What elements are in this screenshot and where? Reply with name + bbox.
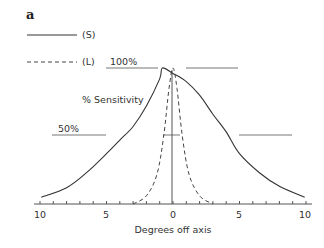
tick-label-pos5: 5 [236,209,242,220]
legend: (S) (L) [27,29,95,67]
series-s-curve [41,68,304,197]
tick-label-neg5: 5 [103,209,109,220]
tick-label-neg10: 10 [34,209,46,220]
label-50-percent: 50% [58,123,79,134]
tick-label-pos10: 10 [299,209,311,220]
sensitivity-chart: a (S) (L) 100% 50% % Sensitivity 10 5 0 … [0,0,324,248]
x-axis-label: Degrees off axis [135,224,212,235]
label-100-percent: 100% [110,56,137,67]
y-axis-label: % Sensitivity [82,94,144,105]
legend-label-s: (S) [82,29,95,40]
series-l-curve [133,68,213,204]
x-axis: 10 5 0 5 10 Degrees off axis [34,201,312,235]
panel-label: a [26,7,35,22]
tick-label-0: 0 [170,209,176,220]
x-axis-ticks [40,201,306,204]
legend-label-l: (L) [82,56,95,67]
